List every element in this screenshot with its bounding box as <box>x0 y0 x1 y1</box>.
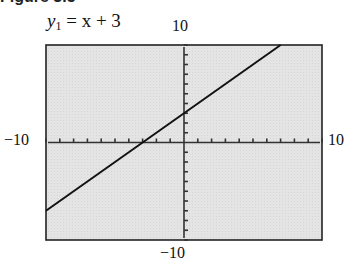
graph-screen <box>0 0 357 268</box>
